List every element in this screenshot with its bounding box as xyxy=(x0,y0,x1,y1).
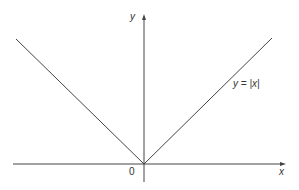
y-axis-arrow-icon xyxy=(142,14,146,20)
curve-label: y = |x| xyxy=(233,79,260,89)
y-axis-label: y xyxy=(130,12,135,22)
x-axis-label: x xyxy=(279,167,284,177)
origin-label: 0 xyxy=(129,167,135,177)
plot-area xyxy=(0,0,299,190)
